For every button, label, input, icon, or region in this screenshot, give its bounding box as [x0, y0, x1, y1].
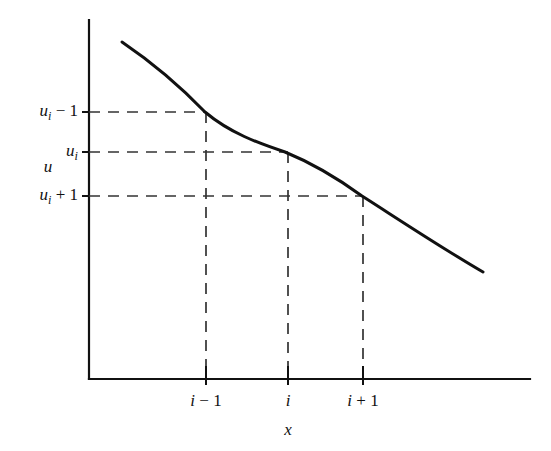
- x-axis-label: x: [284, 421, 292, 438]
- x-tick-label-i: i: [286, 392, 291, 409]
- y-tick-op-2: + 1: [51, 185, 78, 204]
- x-tick-base-1: i: [286, 391, 291, 410]
- y-tick-op-0: − 1: [51, 101, 78, 120]
- function-curve: [122, 42, 483, 272]
- y-tick-base-1: u: [66, 141, 75, 160]
- y-tick-label-u-i-minus-1: ui − 1: [40, 102, 79, 122]
- plot-canvas: [0, 0, 551, 451]
- figure-finite-difference-stencil: u ui − 1 ui ui + 1 i − 1 i i + 1 x: [0, 0, 551, 451]
- y-tick-label-u-i: ui: [66, 142, 78, 162]
- x-tick-label-i-minus-1: i − 1: [190, 392, 221, 409]
- y-tick-base-0: u: [40, 101, 49, 120]
- horizontal-projection-lines: [89, 112, 363, 196]
- y-tick-sub-1: i: [75, 149, 78, 163]
- x-tick-op-0: − 1: [195, 391, 222, 410]
- y-tick-base-2: u: [40, 185, 49, 204]
- y-tick-label-u-i-plus-1: ui + 1: [40, 186, 79, 206]
- y-axis-label: u: [44, 158, 53, 175]
- x-tick-op-2: + 1: [352, 391, 379, 410]
- x-axis-ticks: [206, 366, 363, 385]
- x-tick-label-i-plus-1: i + 1: [347, 392, 378, 409]
